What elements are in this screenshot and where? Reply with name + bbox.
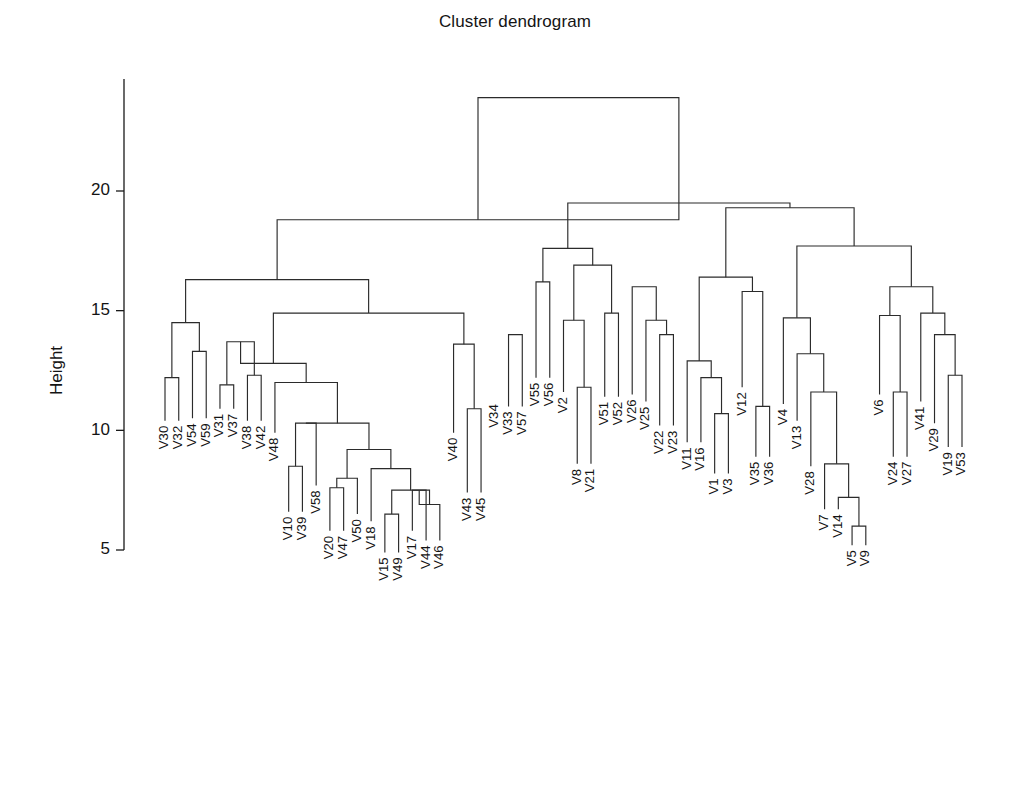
leaf-label: V40: [445, 438, 460, 461]
dendrogram-link: [371, 469, 411, 522]
leaf-label: V23: [665, 431, 680, 454]
dendrogram-link: [921, 313, 945, 402]
dendrogram-link: [247, 375, 261, 420]
dendrogram-link: [296, 423, 317, 485]
dendrogram-link: [165, 378, 179, 421]
leaf-label: V17: [404, 536, 419, 559]
leaf-label: V12: [734, 392, 749, 415]
dendrogram-link: [577, 387, 591, 464]
leaf-label: V15: [376, 557, 391, 580]
y-axis-tick-label: 10: [91, 420, 110, 439]
leaf-label: V44: [418, 545, 433, 568]
dendrogram-link: [330, 488, 344, 531]
dendrogram-link: [275, 382, 337, 432]
dendrogram-link: [564, 320, 585, 392]
dendrogram-link: [701, 378, 722, 443]
dendrogram-link: [574, 265, 612, 320]
dendrogram-link: [852, 526, 866, 545]
leaf-labels: V30V32V54V59V31V37V38V42V48V10V39V58V20V…: [156, 383, 968, 581]
leaf-label: V14: [830, 514, 845, 537]
leaf-label: V9: [857, 550, 872, 566]
leaf-label: V41: [912, 407, 927, 430]
leaf-label: V35: [747, 462, 762, 485]
dendrogram-link: [192, 351, 206, 418]
dendrogram-link: [715, 414, 729, 474]
dendrogram-link: [385, 514, 399, 552]
dendrogram-link: [687, 361, 711, 442]
dendrogram-link: [186, 280, 369, 323]
leaf-label: V45: [473, 498, 488, 521]
leaf-label: V58: [308, 490, 323, 513]
y-axis-tick-label: 20: [91, 180, 110, 199]
dendrogram-root-link: [478, 98, 679, 220]
leaf-label: V36: [761, 462, 776, 485]
leaf-label: V53: [953, 452, 968, 475]
dendrogram-link: [536, 282, 550, 378]
dendrogram-link: [742, 292, 763, 407]
leaf-label: V47: [335, 536, 350, 559]
cluster-dendrogram-plot: Cluster dendrogram 5101520Height V30V32V…: [0, 0, 1030, 808]
leaf-label: V29: [926, 428, 941, 451]
y-axis-tick-label: 5: [101, 539, 110, 558]
leaf-label: V25: [637, 407, 652, 430]
leaf-label: V24: [885, 462, 900, 485]
dendrogram-link: [797, 246, 911, 318]
dendrogram-link: [454, 344, 475, 433]
leaf-label: V48: [266, 438, 281, 461]
dendrogram-link: [811, 392, 837, 466]
dendrogram-svg: 5101520Height V30V32V54V59V31V37V38V42V4…: [0, 0, 1030, 808]
dendrogram-link: [660, 335, 674, 426]
leaf-label: V13: [789, 426, 804, 449]
leaf-label: V49: [390, 557, 405, 580]
dendrogram-link: [893, 392, 907, 457]
leaf-label: V3: [720, 478, 735, 494]
dendrogram-link: [726, 208, 854, 277]
y-axis-tick-label: 15: [91, 300, 110, 319]
dendrogram-link: [605, 313, 619, 397]
leaf-label: V11: [679, 447, 694, 470]
leaf-label: V2: [555, 397, 570, 413]
dendrogram-link: [646, 320, 667, 401]
dendrogram-link: [289, 466, 303, 511]
dendrogram-link: [337, 478, 358, 514]
leaf-label: V26: [624, 399, 639, 422]
leaf-label: V7: [816, 514, 831, 530]
dendrogram-link: [880, 315, 901, 394]
dendrogram-link: [890, 287, 933, 316]
leaf-label: V10: [280, 517, 295, 540]
leaf-label: V6: [871, 399, 886, 415]
dendrogram-link: [948, 375, 962, 447]
leaf-label: V28: [802, 471, 817, 494]
y-axis: 5101520Height: [47, 79, 124, 558]
dendrogram-link: [273, 313, 464, 363]
leaf-label: V21: [582, 469, 597, 492]
leaf-label: V4: [775, 409, 790, 425]
leaf-label: V18: [363, 526, 378, 549]
dendrogram-link: [935, 335, 956, 424]
dendrogram-link: [220, 385, 234, 409]
dendrogram-link: [347, 449, 391, 478]
dendrogram-link: [172, 323, 199, 378]
dendrogram-link: [825, 464, 849, 509]
dendrogram-link: [632, 287, 656, 395]
leaf-label: V16: [692, 447, 707, 470]
leaf-label: V39: [294, 517, 309, 540]
dendrogram-link: [392, 490, 430, 514]
leaf-label: V57: [514, 411, 529, 434]
dendrogram-link: [699, 277, 752, 361]
dendrogram-link: [306, 423, 369, 449]
dendrogram-link: [756, 406, 770, 456]
leaf-label: V27: [899, 462, 914, 485]
dendrogram-link: [509, 335, 523, 407]
dendrogram-link: [467, 409, 481, 493]
dendrogram-branches: [165, 98, 962, 553]
y-axis-title: Height: [47, 346, 66, 395]
leaf-label: V46: [431, 545, 446, 568]
